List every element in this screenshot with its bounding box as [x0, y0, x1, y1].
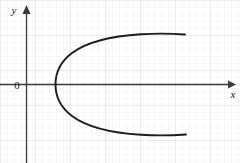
- parabola-plot: y x 0: [0, 0, 240, 163]
- origin-label: 0: [14, 79, 20, 91]
- grid-lines: [0, 0, 240, 163]
- y-axis-label: y: [11, 4, 17, 16]
- graph-figure: y x 0: [0, 0, 240, 163]
- x-axis-label: x: [230, 88, 236, 100]
